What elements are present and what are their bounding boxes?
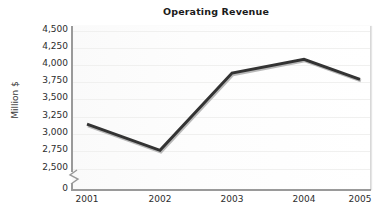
y-axis-tick-label: 3,250 <box>28 110 68 120</box>
y-axis-tick-label: 4,250 <box>28 41 68 51</box>
x-axis-tick-label: 2003 <box>207 194 257 204</box>
x-axis-tick-label: 2002 <box>135 194 185 204</box>
x-axis-tick-labels: 2001 2002 2003 2004 2005 <box>72 194 370 210</box>
x-axis-tick-label: 2004 <box>279 194 329 204</box>
y-axis-tick-labels: 4,500 4,250 4,000 3,750 3,500 3,250 3,00… <box>28 24 68 190</box>
axis-break-icon <box>66 169 82 185</box>
y-axis-tick-label-zero: 0 <box>28 183 68 193</box>
series-line <box>87 59 360 150</box>
y-axis-tick-label: 3,500 <box>28 92 68 102</box>
y-axis-tick-label: 2,500 <box>28 162 68 172</box>
y-axis-tick-label: 4,500 <box>28 24 68 34</box>
y-axis-tick-label: 4,000 <box>28 58 68 68</box>
chart-title: Operating Revenue <box>60 6 372 17</box>
y-axis-tick-label: 3,750 <box>28 75 68 85</box>
y-axis-label: Million $ <box>10 60 20 140</box>
y-axis-line <box>71 26 73 172</box>
x-axis-tick-label: 2001 <box>62 194 112 204</box>
data-series-line <box>72 26 370 190</box>
line-chart: Operating Revenue Million $ 4,500 4,250 … <box>0 0 387 216</box>
y-axis-tick-label: 2,750 <box>28 144 68 154</box>
x-axis-line <box>71 189 371 191</box>
plot-area <box>72 26 371 190</box>
x-axis-tick-label: 2005 <box>335 194 385 204</box>
y-axis-tick-label: 3,000 <box>28 127 68 137</box>
